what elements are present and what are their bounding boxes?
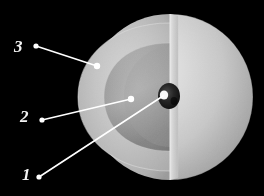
callout-2-start-dot <box>39 117 44 122</box>
callout-1-start-dot <box>36 174 41 179</box>
cutaway-sphere-graphic <box>0 0 264 196</box>
callout-3-start-dot <box>33 43 38 48</box>
sphere-cutaway-figure: 3 2 1 <box>0 0 264 196</box>
callout-label-3: 3 <box>14 38 23 55</box>
callout-3-end-dot <box>94 63 100 69</box>
callout-label-2: 2 <box>20 108 29 125</box>
callout-label-1: 1 <box>22 166 31 183</box>
callout-2-end-dot <box>128 96 134 102</box>
